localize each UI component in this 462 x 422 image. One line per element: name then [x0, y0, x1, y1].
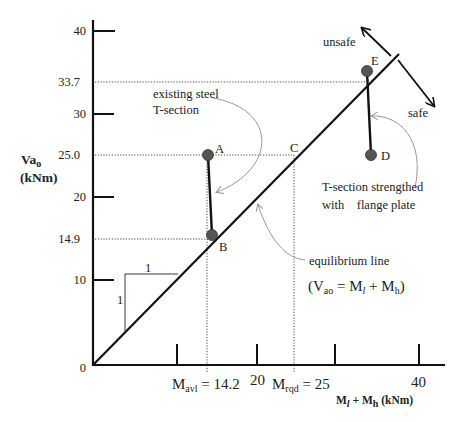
annotation-safe: safe [408, 107, 428, 120]
y-tick-label-10: 10 [46, 274, 86, 287]
annotation-strengthened-line2: with flange plate [322, 199, 415, 212]
y-axis-title-main: Va [21, 152, 36, 167]
annotation-eq-formula: (Vao = Ml + Mh) [308, 279, 405, 296]
unsafe-arrow [362, 28, 391, 56]
annotation-strengthened-line1: T-section strengthed [322, 181, 423, 194]
point-d [366, 150, 377, 161]
y-axis-title: Vao [21, 153, 41, 169]
x-tick-label-40: 40 [411, 375, 426, 390]
x-tick-label-20: 20 [250, 373, 265, 388]
annotation-existing-line1: existing steel [153, 88, 219, 101]
annotation-unsafe: unsafe [323, 36, 356, 49]
leader-lines [213, 98, 417, 260]
point-label-a: A [215, 143, 224, 156]
y-tick-label-0: 0 [46, 362, 86, 375]
annotation-existing-line2: T-section [153, 104, 199, 117]
safe-arrow [398, 60, 434, 106]
point-label-c: C [290, 142, 298, 155]
x-label-m-rqd: Mrqd = 25 [272, 377, 330, 394]
y-tick-label-33-7: 33.7 [40, 76, 80, 89]
y-tick-label-14-9: 14.9 [40, 233, 80, 246]
y-axis-unit: (kNm) [20, 171, 58, 185]
point-b [207, 230, 218, 241]
point-label-d: D [381, 150, 390, 163]
slope-label-run: 1 [145, 262, 151, 275]
point-label-b: B [219, 241, 227, 254]
x-axis-title: Ml + Mh (kNm) [336, 395, 413, 409]
y-tick-label-40: 40 [46, 25, 86, 38]
slope-label-rise: 1 [117, 294, 123, 307]
segment-a-b [208, 155, 212, 235]
x-label-m-avl: Mavl = 14.2 [172, 377, 240, 394]
y-tick-label-20: 20 [46, 191, 86, 204]
y-tick-label-25-0: 25.0 [40, 149, 80, 162]
point-label-e: E [371, 55, 379, 68]
strengthened-leader [372, 116, 417, 188]
slope-triangle [125, 274, 178, 331]
y-tick-label-30: 30 [46, 108, 86, 121]
y-axis-title-sub: o [36, 158, 41, 169]
annotation-equilibrium: equilibrium line [309, 255, 389, 268]
equilibrium-leader [258, 205, 305, 260]
point-a [203, 150, 214, 161]
